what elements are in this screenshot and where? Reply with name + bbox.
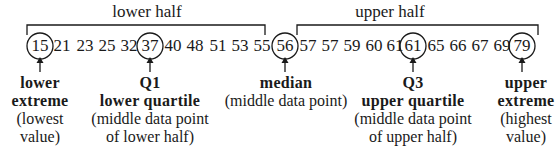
q1-label: Q1 lower quartile (middle data point of … (91, 74, 208, 146)
data-value: 57 (300, 36, 317, 56)
upper-extreme-title-2: extreme (498, 92, 555, 110)
median-label: median (middle data point) (225, 74, 348, 110)
data-value: 69 (494, 36, 511, 56)
data-value: 79 (514, 36, 531, 56)
data-value: 65 (428, 36, 445, 56)
q1-subtitle: lower quartile (91, 92, 208, 110)
data-value: 59 (344, 36, 361, 56)
data-value: 61 (405, 36, 422, 56)
data-value: 21 (54, 36, 71, 56)
median-desc: (middle data point) (225, 92, 348, 110)
q1-desc: (middle data point (91, 110, 208, 128)
data-value: 60 (366, 36, 383, 56)
data-value: 51 (210, 36, 227, 56)
box-plot-five-number-summary-diagram: lower half upper half 15 21 23 25 32 37 … (0, 0, 560, 148)
lower-extreme-desc: (lowest (12, 110, 69, 128)
data-value: 61 (387, 36, 404, 56)
q3-title: Q3 (354, 74, 471, 92)
lower-half-label: lower half (112, 2, 181, 22)
data-value: 25 (99, 36, 116, 56)
q3-label: Q3 upper quartile (middle data point of … (354, 74, 471, 146)
q3-desc: (middle data point (354, 110, 471, 128)
data-value: 53 (232, 36, 249, 56)
data-value: 48 (187, 36, 204, 56)
data-value: 55 (254, 36, 271, 56)
data-value: 37 (142, 36, 159, 56)
data-value: 57 (322, 36, 339, 56)
upper-extreme-title: upper (498, 74, 555, 92)
upper-half-label: upper half (355, 2, 424, 22)
upper-extreme-label: upper extreme (highest value) (498, 74, 555, 146)
lower-extreme-title: lower (12, 74, 69, 92)
q3-desc-2: of upper half) (354, 128, 471, 146)
data-value: 23 (77, 36, 94, 56)
data-value: 67 (472, 36, 489, 56)
lower-extreme-label: lower extreme (lowest value) (12, 74, 69, 146)
data-value: 56 (277, 36, 294, 56)
median-title: median (225, 74, 348, 92)
data-value: 66 (450, 36, 467, 56)
upper-extreme-desc: (highest (498, 110, 555, 128)
lower-extreme-desc-2: value) (12, 128, 69, 146)
data-value: 15 (32, 36, 49, 56)
q1-title: Q1 (91, 74, 208, 92)
lower-extreme-title-2: extreme (12, 92, 69, 110)
upper-extreme-desc-2: value) (498, 128, 555, 146)
q3-subtitle: upper quartile (354, 92, 471, 110)
q1-desc-2: of lower half) (91, 128, 208, 146)
data-value: 40 (165, 36, 182, 56)
data-value: 32 (121, 36, 138, 56)
